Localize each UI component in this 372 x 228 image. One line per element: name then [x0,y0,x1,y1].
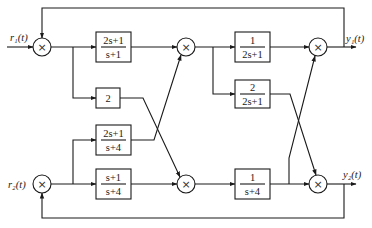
b3-denominator: s+4 [106,142,122,153]
input-r1-label: r₁(t) [10,32,28,44]
line-b7-m5 [289,56,315,184]
b2-gain: 2 [105,93,110,104]
b6-denominator: 2s+1 [242,96,263,107]
multiplier-m3: × [177,38,195,56]
block-b1: 2s+1 s+1 [96,32,131,62]
b3-numerator: 2s+1 [103,128,124,139]
m2-branches [51,140,96,184]
line-b6-m6 [270,94,316,175]
b7-denominator: s+4 [245,186,261,197]
b4-denominator: s+4 [106,186,122,197]
block-b3: 2s+1 s+4 [96,125,131,155]
b1-numerator: 2s+1 [103,35,124,46]
b1-denominator: s+1 [106,49,121,60]
block-b4: s+1 s+4 [96,169,131,199]
output-y1-label: y₁(t) [345,33,365,45]
multiply-icon: × [181,41,190,54]
multiplier-m4: × [177,175,195,193]
block-diagram: r₁(t) r₂(t) × × 2s+1 s+1 2 2s+1 s+4 [0,0,372,228]
multiply-icon: × [313,178,322,191]
output-y2: y₂(t) [327,169,362,184]
multiplier-m2: × [33,175,51,193]
b5-numerator: 1 [250,35,255,46]
multiplier-m1: × [33,38,51,56]
m1-branches [51,47,96,98]
multiply-icon: × [181,178,190,191]
block-b6: 2 2s+1 [235,80,270,108]
input-r1: r₁(t) [7,32,33,47]
block-b5: 1 2s+1 [235,32,270,62]
m3-branches [195,47,235,94]
block-b7: 1 s+4 [235,169,270,199]
multiply-icon: × [37,41,46,54]
multiply-icon: × [37,178,46,191]
b7-numerator: 1 [250,172,255,183]
multiply-icon: × [313,41,322,54]
input-r2: r₂(t) [8,179,26,191]
b6-numerator: 2 [250,82,255,93]
input-r2-label: r₂(t) [8,179,26,191]
multiplier-m6: × [309,175,327,193]
block-b2: 2 [96,88,120,108]
b4-numerator: s+1 [106,172,121,183]
output-y1: y₁(t) [327,33,365,47]
multiplier-m5: × [309,38,327,56]
output-y2-label: y₂(t) [342,169,362,181]
b5-denominator: 2s+1 [242,49,263,60]
